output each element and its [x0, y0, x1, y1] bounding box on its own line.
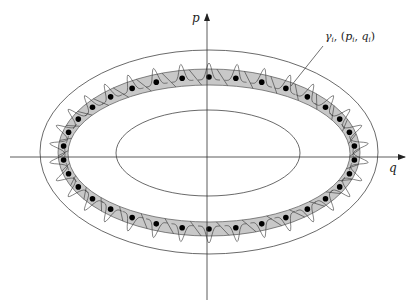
- phase-point-dot: [347, 171, 353, 177]
- phase-point-dot: [347, 129, 353, 135]
- phase-point-dot: [323, 104, 329, 110]
- phase-point-dot: [305, 94, 311, 100]
- phase-point-dot: [259, 221, 265, 227]
- annotation-separator: , (: [334, 30, 345, 43]
- phase-point-dot: [283, 215, 289, 221]
- phase-point-dot: [153, 79, 159, 85]
- phase-point-dot: [179, 75, 185, 81]
- annotation-comma: ,: [354, 30, 361, 43]
- p-symbol: p: [345, 30, 352, 43]
- annotation-close: ): [371, 30, 375, 43]
- inner-energy-contour: [116, 110, 300, 196]
- phase-point-dot: [233, 75, 239, 81]
- phase-point-dot: [108, 94, 114, 100]
- phase-point-dot: [337, 116, 343, 122]
- p-axis-label: p: [192, 11, 200, 25]
- phase-point-dot: [233, 225, 239, 231]
- phase-point-dot: [153, 221, 159, 227]
- phase-point-dot: [129, 215, 135, 221]
- phase-point-dot: [305, 206, 311, 212]
- phase-point-dot: [129, 86, 135, 92]
- phase-point-dot: [352, 157, 358, 163]
- phase-point-dot: [76, 184, 82, 190]
- phase-point-dot: [90, 104, 96, 110]
- phase-point-dot: [352, 143, 358, 149]
- coherent-states-ring: [50, 63, 368, 243]
- phase-point-dot: [108, 206, 114, 212]
- annotation-label: γi, (pi, qi): [325, 30, 375, 44]
- q-axis-label: q: [389, 161, 397, 175]
- phase-point-dot: [337, 184, 343, 190]
- phase-point-dot: [90, 196, 96, 202]
- phase-point-dot: [61, 157, 67, 163]
- phase-point-dot: [283, 86, 289, 92]
- phase-point-dot: [259, 79, 265, 85]
- phase-space-diagram: p q γi, (pi, qi): [0, 0, 416, 308]
- phase-point-dot: [61, 143, 67, 149]
- annotation-leader-line: [291, 46, 323, 86]
- phase-point-dot: [323, 196, 329, 202]
- phase-point-dot: [66, 171, 72, 177]
- shaded-band: [58, 69, 360, 236]
- q-symbol: q: [361, 30, 368, 43]
- phase-point-dot: [66, 129, 72, 135]
- phase-point-dot: [76, 116, 82, 122]
- phase-point-dot: [179, 225, 185, 231]
